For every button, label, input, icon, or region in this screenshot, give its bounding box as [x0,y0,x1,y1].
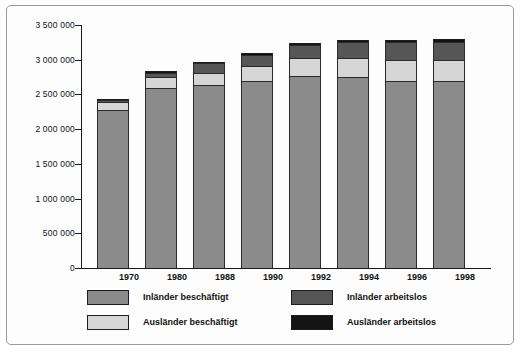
y-tick-label: 2 000 000 [35,124,75,134]
bar-segment [289,76,321,268]
legend-label: Inländer arbeitslos [347,289,427,306]
y-tick-label: 1 500 000 [35,159,75,169]
bar-segment [97,110,129,268]
y-tick-1000000 [75,199,82,200]
y-axis-labels: 0500 0001 000 0001 500 0002 000 0002 500… [7,20,75,269]
bar-segment [337,77,369,268]
bar-segment [385,81,417,268]
legend-swatch [291,290,333,305]
bar-segment [433,42,465,61]
bar-segment [241,81,273,268]
bar-1990[interactable] [241,53,273,268]
bar-segment [193,85,225,268]
bar-1998[interactable] [433,39,465,268]
y-tick-3500000 [75,25,82,26]
y-tick-500000 [75,233,82,234]
bar-segment [289,45,321,57]
x-tick-label-1998: 1998 [435,272,495,282]
legend-swatch [87,290,129,305]
bar-segment [241,55,273,66]
plot-area: 19701980198819901992199419961998 [81,20,493,269]
bar-segment [289,58,321,76]
bar-1988[interactable] [193,62,225,268]
bar-segment [337,42,369,58]
bar-segment [433,81,465,268]
y-tick-label: 500 000 [43,228,75,238]
chart-legend: Inländer beschäftigtAusländer beschäftig… [87,289,487,339]
y-tick-label: 3 000 000 [35,55,75,65]
y-tick-label: 1 000 000 [35,194,75,204]
y-tick-label: 3 500 000 [35,20,75,30]
chart-frame: 0500 0001 000 0001 500 0002 000 0002 500… [6,5,514,345]
legend-label: Ausländer beschäftigt [143,314,238,331]
bar-1996[interactable] [385,40,417,268]
bar-segment [193,63,225,73]
bar-segment [433,60,465,81]
legend-label: Inländer beschäftigt [143,289,229,306]
y-tick-label: 2 500 000 [35,89,75,99]
y-tick-2500000 [75,94,82,95]
bar-1992[interactable] [289,43,321,268]
bar-segment [145,88,177,268]
bar-segment [145,77,177,88]
bar-1994[interactable] [337,40,369,268]
y-axis-line [81,25,82,268]
legend-swatch [87,315,129,330]
bar-1980[interactable] [145,71,177,268]
x-axis-line [81,268,491,269]
legend-swatch [291,315,333,330]
y-tick-0 [75,268,82,269]
bar-segment [97,102,129,110]
y-tick-3000000 [75,60,82,61]
bar-segment [385,60,417,80]
legend-label: Ausländer arbeitslos [347,314,436,331]
bar-segment [337,58,369,77]
bar-segment [241,66,273,81]
bar-1970[interactable] [97,99,129,268]
bar-segment [193,73,225,85]
y-tick-1500000 [75,164,82,165]
bar-segment [385,42,417,60]
y-tick-2000000 [75,129,82,130]
